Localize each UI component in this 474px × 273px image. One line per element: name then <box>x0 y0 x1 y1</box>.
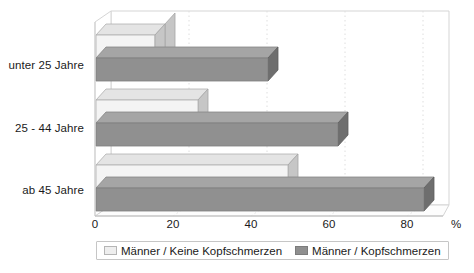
category-label-ab-45: ab 45 Jahre <box>22 184 84 196</box>
chart-legend: Männer / Keine Kopfschmerzen Männer / Ko… <box>96 241 449 260</box>
legend-label-kopfschmerzen: Männer / Kopfschmerzen <box>312 245 440 257</box>
bar-unter-25-kopfschmerzen <box>96 47 278 81</box>
left-wall <box>95 11 111 216</box>
bar-ab-45-kopfschmerzen <box>96 177 434 211</box>
x-tick-60: 60 <box>323 218 336 230</box>
bar-25-44-keine-kopfschmerzen <box>96 89 208 123</box>
x-tick-20: 20 <box>167 218 180 230</box>
bar-unter-25-keine-kopfschmerzen <box>96 13 175 58</box>
x-axis-tick-labels: 0 20 40 60 80 % <box>0 218 474 236</box>
legend-item-keine-kopfschmerzen[interactable]: Männer / Keine Kopfschmerzen <box>104 245 282 257</box>
back-wall <box>111 11 449 205</box>
legend-label-keine-kopfschmerzen: Männer / Keine Kopfschmerzen <box>121 245 282 257</box>
bar-25-44-kopfschmerzen <box>96 112 348 146</box>
x-tick-80: 80 <box>401 218 414 230</box>
x-tick-40: 40 <box>245 218 258 230</box>
gridlines <box>189 11 423 205</box>
legend-swatch-icon-kopfschmerzen <box>295 246 308 255</box>
category-label-25-44: 25 - 44 Jahre <box>15 122 84 134</box>
chart-container: unter 25 Jahre 25 - 44 Jahre ab 45 Jahre… <box>0 0 474 273</box>
bar-ab-45-keine-kopfschmerzen <box>96 154 298 188</box>
x-tick-0: 0 <box>92 218 98 230</box>
floor-plane <box>95 205 449 216</box>
legend-item-kopfschmerzen[interactable]: Männer / Kopfschmerzen <box>295 245 440 257</box>
category-axis-labels: unter 25 Jahre 25 - 44 Jahre ab 45 Jahre <box>0 0 88 216</box>
floor-gridlines <box>173 205 423 216</box>
legend-swatch-icon-keine-kopfschmerzen <box>104 246 117 255</box>
x-axis-unit-label: % <box>451 218 461 230</box>
category-label-unter-25: unter 25 Jahre <box>8 59 84 71</box>
